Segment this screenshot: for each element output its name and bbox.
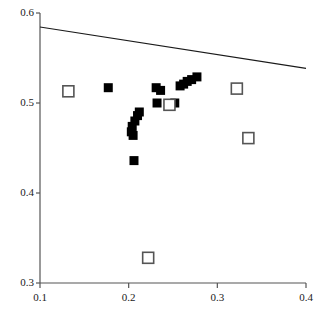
- x-tick-label: 0.4: [286, 292, 320, 303]
- axis-frame: [40, 13, 306, 283]
- data-point-filled: [104, 83, 113, 92]
- y-tick-label: 0.5: [2, 97, 34, 108]
- plot-canvas: [0, 0, 320, 315]
- data-markers: [63, 72, 254, 263]
- data-point-open: [164, 99, 175, 110]
- tick-marks: [36, 13, 306, 288]
- data-point-filled: [129, 156, 138, 165]
- data-point-filled: [129, 131, 138, 140]
- data-point-open: [231, 83, 242, 94]
- data-point-open: [63, 86, 74, 97]
- y-tick-label: 0.6: [2, 7, 34, 18]
- data-point-open: [143, 252, 154, 263]
- y-tick-label: 0.4: [2, 187, 34, 198]
- trend-lines: [40, 27, 306, 68]
- boundary-line-line: [40, 27, 306, 68]
- data-point-filled: [153, 99, 162, 108]
- scatter-chart: 0.30.40.50.6 0.10.20.30.4: [0, 0, 320, 315]
- data-point-open: [243, 133, 254, 144]
- data-point-filled: [192, 72, 201, 81]
- y-tick-label: 0.3: [2, 277, 34, 288]
- data-point-filled: [156, 86, 165, 95]
- x-tick-label: 0.3: [197, 292, 237, 303]
- x-tick-label: 0.2: [109, 292, 149, 303]
- x-tick-label: 0.1: [20, 292, 60, 303]
- data-point-filled: [135, 108, 144, 117]
